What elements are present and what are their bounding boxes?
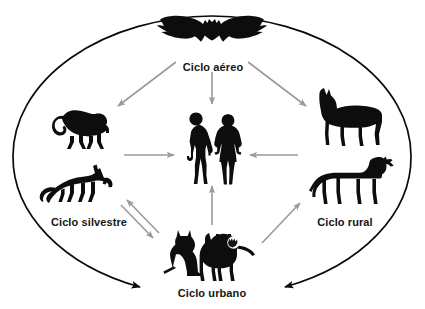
silhouette-group [40,16,394,281]
label-ciclo-rural: Ciclo rural [317,217,373,228]
man-icon [187,113,213,184]
arrow-urbano-to-rural [262,203,300,243]
fox-icon [40,164,113,203]
diagram-canvas [0,0,425,309]
cat-icon [163,230,201,276]
label-ciclo-urbano: Ciclo urbano [178,288,246,299]
bat-icon [157,16,267,42]
arrow-bat-to-monkey [118,62,176,106]
label-ciclo-silvestre: Ciclo silvestre [51,217,127,228]
cow-icon [309,156,394,204]
dog-icon [200,233,255,281]
label-ciclo-aereo: Ciclo aéreo [183,62,243,73]
monkey-icon [52,110,109,149]
woman-icon [214,114,242,184]
transmission-cycle-diagram: Ciclo aéreo Ciclo silvestre Ciclo rural … [0,0,425,309]
arrow-bat-to-horse [248,62,306,106]
horse-icon [319,88,382,146]
